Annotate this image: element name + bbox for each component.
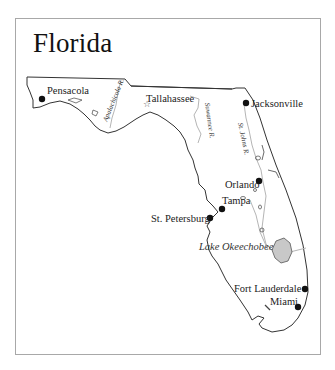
jacksonville-marker xyxy=(243,100,249,106)
fort-lauderdale-marker xyxy=(302,286,308,292)
label-miami: Miami xyxy=(270,296,298,307)
label-st-petersburg: St. Petersburg xyxy=(151,213,210,224)
lake-okeechobee-shape xyxy=(272,238,292,263)
state-border-line xyxy=(131,86,232,89)
label-tampa: Tampa xyxy=(222,195,251,206)
tampa-marker xyxy=(219,206,225,212)
label-lake-okeechobee: Lake Okeechobee xyxy=(198,241,274,252)
st-johns-river xyxy=(244,104,306,252)
lagoon-line xyxy=(262,145,264,160)
label-tallahassee: Tallahassee xyxy=(146,93,195,104)
bay-shape xyxy=(68,98,82,103)
label-suwannee-river: Suwannee R. xyxy=(203,102,216,139)
florida-map: Apalachicola R. Suwannee R. St. Johns R.… xyxy=(0,0,335,370)
small-lake xyxy=(259,205,262,209)
pensacola-marker xyxy=(39,96,45,102)
label-jacksonville: Jacksonville xyxy=(251,98,303,109)
lagoon-line xyxy=(268,170,279,178)
label-apalachicola-river: Apalachicola R. xyxy=(101,78,126,124)
label-fort-lauderdale: Fort Lauderdale xyxy=(234,283,302,294)
label-pensacola: Pensacola xyxy=(47,85,89,96)
bay-shape xyxy=(92,110,98,116)
label-orlando: Orlando xyxy=(225,179,259,190)
